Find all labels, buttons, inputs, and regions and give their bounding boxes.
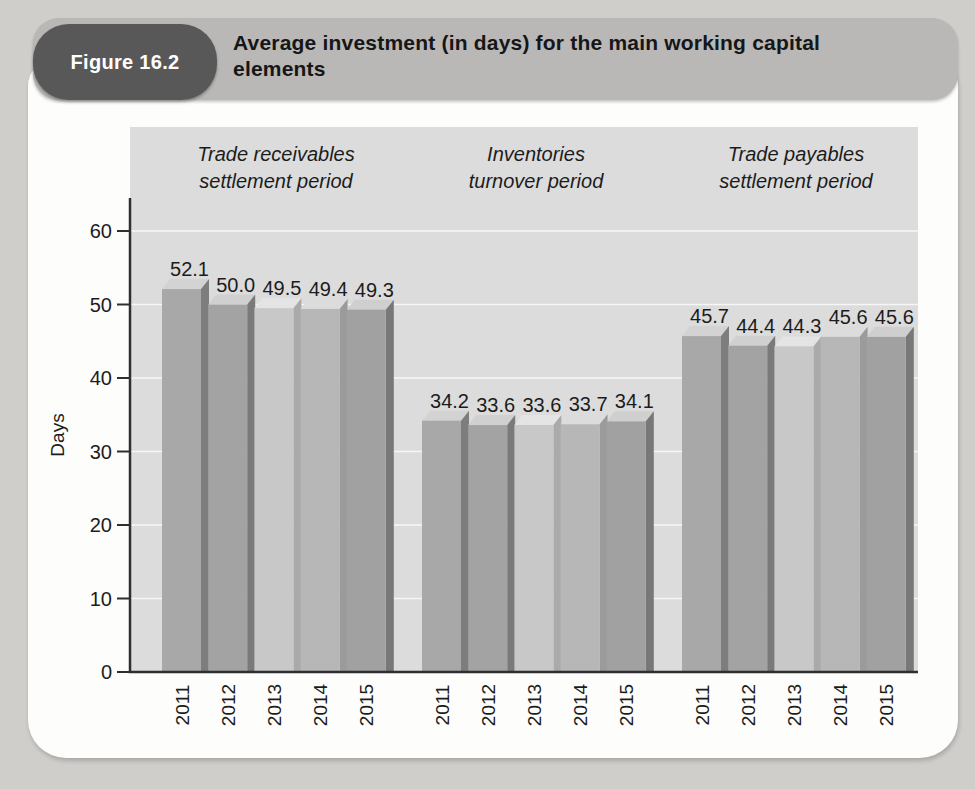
- bar-2011-group-2: [422, 421, 461, 672]
- bar-2015-group-1: [347, 310, 386, 672]
- bar-value-label-2015-group-1: 49.3: [355, 279, 394, 301]
- bar-top-2015-group-1: [347, 300, 394, 310]
- bar-value-label-2012-group-2: 33.6: [476, 394, 515, 416]
- y-tick-label-30: 30: [90, 441, 112, 463]
- bar-2011-group-3: [682, 336, 721, 672]
- bar-2013-group-2: [514, 425, 553, 672]
- bar-2014-group-2: [561, 424, 600, 672]
- bar-value-label-2014-group-2: 33.7: [569, 393, 608, 415]
- group-label-3-line-2: settlement period: [719, 170, 873, 192]
- bar-side-2012-group-2: [507, 415, 515, 672]
- bar-value-label-2013-group-3: 44.3: [782, 315, 821, 337]
- page-background: Average investment (in days) for the mai…: [0, 0, 975, 789]
- bar-chart: Trade receivablessettlement periodInvent…: [0, 0, 975, 789]
- bar-side-2014-group-1: [340, 299, 348, 672]
- year-label-2015-group-2: 2015: [616, 684, 637, 726]
- bar-value-label-2014-group-3: 45.6: [829, 306, 868, 328]
- bar-top-2012-group-1: [208, 295, 255, 305]
- group-label-1-line-1: Trade receivables: [197, 143, 354, 165]
- bar-top-2015-group-3: [867, 327, 914, 337]
- y-tick-label-60: 60: [90, 220, 112, 242]
- year-label-2013-group-3: 2013: [784, 684, 805, 726]
- y-tick-label-20: 20: [90, 514, 112, 536]
- bar-top-2013-group-2: [514, 415, 561, 425]
- year-label-2014-group-2: 2014: [570, 683, 591, 726]
- year-label-2011-group-3: 2011: [692, 685, 713, 726]
- bar-side-2013-group-1: [293, 298, 301, 672]
- bar-side-2015-group-2: [646, 411, 654, 672]
- bar-top-2014-group-3: [821, 327, 868, 337]
- bar-side-2014-group-3: [860, 327, 868, 672]
- bar-2014-group-1: [301, 309, 340, 672]
- year-label-2014-group-3: 2014: [830, 683, 851, 726]
- bar-top-2015-group-2: [607, 411, 654, 421]
- bar-value-label-2011-group-3: 45.7: [690, 305, 729, 327]
- bar-side-2011-group-1: [201, 279, 209, 672]
- y-tick-label-50: 50: [90, 294, 112, 316]
- year-label-2012-group-2: 2012: [478, 684, 499, 726]
- bar-2012-group-1: [208, 305, 247, 673]
- year-label-2013-group-1: 2013: [264, 684, 285, 726]
- bar-side-2015-group-1: [386, 300, 394, 672]
- bar-side-2011-group-2: [461, 411, 469, 672]
- y-tick-label-40: 40: [90, 367, 112, 389]
- year-label-2011-group-2: 2011: [432, 685, 453, 726]
- bar-2015-group-2: [607, 421, 646, 672]
- y-tick-label-10: 10: [90, 588, 112, 610]
- bar-2011-group-1: [162, 289, 201, 672]
- bar-side-2011-group-3: [721, 326, 729, 672]
- bar-side-2013-group-2: [553, 415, 561, 672]
- bar-value-label-2011-group-1: 52.1: [170, 258, 209, 280]
- bar-top-2014-group-2: [561, 414, 608, 424]
- group-label-3-line-1: Trade payables: [728, 143, 864, 165]
- year-label-2013-group-2: 2013: [524, 684, 545, 726]
- year-label-2015-group-3: 2015: [876, 684, 897, 726]
- bar-side-2013-group-3: [813, 336, 821, 672]
- bar-2015-group-3: [867, 337, 906, 672]
- group-label-2-line-1: Inventories: [487, 143, 585, 165]
- bar-2014-group-3: [821, 337, 860, 672]
- bar-2013-group-3: [774, 346, 813, 672]
- year-label-2012-group-3: 2012: [738, 684, 759, 726]
- bar-2013-group-1: [254, 308, 293, 672]
- year-label-2014-group-1: 2014: [310, 683, 331, 726]
- bar-value-label-2015-group-3: 45.6: [875, 306, 914, 328]
- bar-value-label-2012-group-3: 44.4: [736, 315, 775, 337]
- bar-side-2014-group-2: [600, 414, 608, 672]
- year-label-2012-group-1: 2012: [218, 684, 239, 726]
- bar-2012-group-3: [728, 346, 767, 672]
- bar-value-label-2012-group-1: 50.0: [216, 274, 255, 296]
- group-label-2-line-2: turnover period: [469, 170, 604, 192]
- bar-top-2011-group-1: [162, 279, 209, 289]
- bar-side-2012-group-3: [767, 336, 775, 672]
- year-label-2015-group-1: 2015: [356, 684, 377, 726]
- y-tick-label-0: 0: [101, 661, 112, 683]
- bar-top-2012-group-2: [468, 415, 515, 425]
- bar-side-2015-group-3: [906, 327, 914, 672]
- bar-top-2013-group-3: [774, 336, 821, 346]
- bar-2012-group-2: [468, 425, 507, 672]
- bar-top-2012-group-3: [728, 336, 775, 346]
- bar-value-label-2014-group-1: 49.4: [309, 278, 348, 300]
- bar-value-label-2015-group-2: 34.1: [615, 390, 654, 412]
- bar-value-label-2011-group-2: 34.2: [430, 390, 469, 412]
- bar-top-2014-group-1: [301, 299, 348, 309]
- year-label-2011-group-1: 2011: [172, 685, 193, 726]
- y-axis-title: Days: [47, 413, 68, 456]
- bar-top-2011-group-3: [682, 326, 729, 336]
- bar-value-label-2013-group-1: 49.5: [262, 277, 301, 299]
- bar-top-2013-group-1: [254, 298, 301, 308]
- bar-side-2012-group-1: [247, 295, 255, 673]
- group-label-1-line-2: settlement period: [199, 170, 353, 192]
- bar-top-2011-group-2: [422, 411, 469, 421]
- bar-value-label-2013-group-2: 33.6: [522, 394, 561, 416]
